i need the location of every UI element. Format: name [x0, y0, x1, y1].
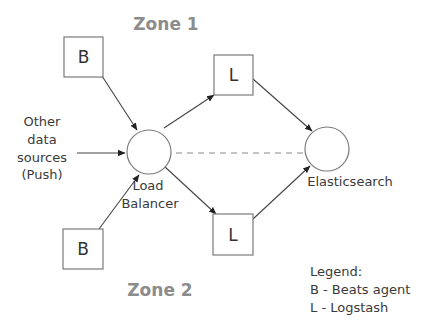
logstash-bottom-label: L: [228, 225, 238, 245]
logstash-top-label: L: [229, 65, 239, 85]
other-sources-line2: data: [27, 132, 56, 147]
beats-agent-node-top: B: [64, 37, 103, 77]
legend: Legend: B - Beats agent L - Logstash: [310, 264, 410, 315]
other-sources-line4: (Push): [21, 167, 62, 182]
legend-item-logstash: L - Logstash: [310, 300, 388, 315]
beats-agent-node-bottom: B: [63, 229, 103, 269]
beats-top-label: B: [78, 47, 90, 67]
edge-load-balancer-to-logstash-top: [164, 95, 214, 128]
edge-logstash-bottom-to-elasticsearch: [253, 166, 310, 219]
edge-logstash-top-to-elasticsearch: [253, 79, 312, 131]
elasticsearch-caption: Elasticsearch: [307, 174, 393, 189]
beats-bottom-label: B: [77, 239, 89, 259]
architecture-diagram: Zone 1 Zone 2 B B L L Load Balancer Elas…: [0, 0, 423, 331]
logstash-node-top: L: [214, 55, 253, 95]
other-data-sources-label: Other data sources (Push): [17, 114, 67, 182]
other-sources-line3: sources: [17, 150, 67, 165]
elasticsearch-node: Elasticsearch: [305, 127, 393, 189]
load-balancer-caption-line1: Load: [132, 178, 163, 193]
other-sources-line1: Other: [24, 114, 62, 129]
load-balancer-caption-line2: Balancer: [121, 196, 179, 211]
edge-beats-top-to-load-balancer: [102, 76, 137, 130]
zone-2-label: Zone 2: [127, 280, 192, 300]
legend-item-beats: B - Beats agent: [310, 282, 410, 297]
load-balancer-node: Load Balancer: [121, 130, 179, 211]
legend-title: Legend:: [310, 264, 362, 279]
logstash-node-bottom: L: [213, 214, 253, 255]
zone-1-label: Zone 1: [133, 14, 198, 34]
